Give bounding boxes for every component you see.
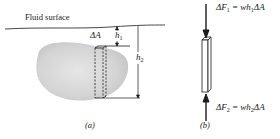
force1-area: ΔA <box>254 2 265 12</box>
force1-eq: = wh <box>230 2 251 12</box>
force2-area: ΔA <box>254 102 265 112</box>
fluid-surface-label: Fluid surface <box>25 13 70 22</box>
area-label: ΔA <box>90 31 101 40</box>
force2-eq: = wh <box>230 102 251 112</box>
depth2-label: h2 <box>136 53 144 63</box>
submerged-body <box>36 42 128 100</box>
depth1-label: h1 <box>115 31 123 41</box>
force2-equation: ΔF2 = wh2ΔA <box>216 103 265 113</box>
caption-b: (b) <box>200 121 210 130</box>
caption-a: (a) <box>85 121 95 130</box>
depth1-subscript: 1 <box>120 35 123 41</box>
prism-element-b <box>202 37 211 92</box>
force-arrow-f1 <box>203 4 209 38</box>
depth2-subscript: 2 <box>141 57 144 63</box>
fluid-surface-line <box>5 25 165 29</box>
force-arrow-f2 <box>203 94 209 121</box>
force2-symbol: ΔF <box>216 102 227 112</box>
force1-symbol: ΔF <box>216 2 227 12</box>
force1-equation: ΔF1 = wh1ΔA <box>216 3 265 13</box>
